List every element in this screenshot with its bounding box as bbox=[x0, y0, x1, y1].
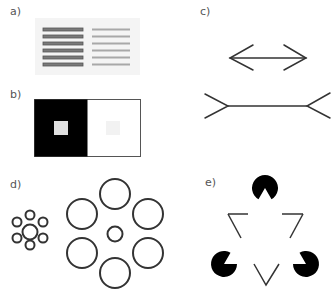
panel-e-kanizsa bbox=[211, 175, 319, 285]
panel-a-bars bbox=[35, 18, 140, 75]
panel-c-muller-lyer bbox=[205, 45, 330, 118]
panel-d-ebbinghaus bbox=[13, 179, 164, 288]
illusions-figure bbox=[0, 0, 333, 295]
panel-b-contrast bbox=[35, 100, 141, 157]
